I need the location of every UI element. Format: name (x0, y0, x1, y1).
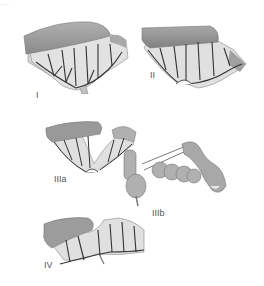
figure-iiib-label: IIIb (152, 208, 165, 218)
figure-iv-diagram (40, 212, 152, 270)
figure-iiib-diagram (120, 140, 232, 212)
figure-i-diagram (18, 18, 130, 94)
figure-iv-label: IV (44, 260, 53, 270)
figure-iiia-label: IIIa (54, 174, 67, 184)
figure-i-label: I (36, 90, 39, 100)
corner-text: ...... (1, 0, 9, 6)
figure-ii-diagram (140, 14, 250, 90)
figure-ii-label: II (150, 70, 155, 80)
